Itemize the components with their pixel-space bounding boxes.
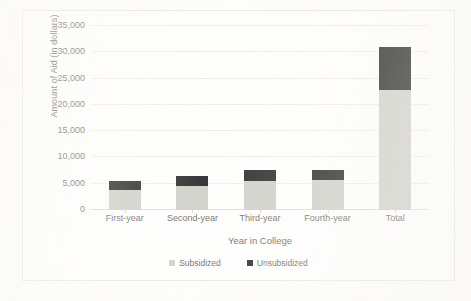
bar-segment-unsubsidized[interactable]: [176, 176, 208, 186]
bar-segment-subsidized[interactable]: [379, 90, 411, 210]
y-axis-tick-label: 15,000: [57, 125, 85, 135]
bar-group[interactable]: [176, 26, 208, 210]
legend-swatch-icon: [169, 260, 175, 266]
x-axis-tick-labels: First-yearSecond-yearThird-yearFourth-ye…: [91, 213, 429, 223]
y-axis-tick-label: 30,000: [57, 46, 85, 56]
y-axis-tick-label: 35,000: [57, 20, 85, 30]
bar-group[interactable]: [379, 26, 411, 210]
bar-series-container: [91, 26, 429, 210]
bar-segment-unsubsidized[interactable]: [379, 47, 411, 90]
bar-segment-subsidized[interactable]: [109, 190, 141, 210]
legend-item[interactable]: Unsubsidized: [247, 258, 308, 268]
legend-label: Unsubsidized: [257, 258, 308, 268]
x-axis-tick-label: Fourth-year: [297, 213, 359, 223]
bar-segment-unsubsidized[interactable]: [244, 170, 276, 181]
bar-segment-subsidized[interactable]: [244, 181, 276, 210]
chart-page: Amount of Aid (in dollars) 05,00010,0001…: [0, 0, 471, 301]
bar-segment-unsubsidized[interactable]: [109, 181, 141, 190]
bar-group[interactable]: [109, 26, 141, 210]
legend-swatch-icon: [247, 260, 253, 266]
legend-item[interactable]: Subsidized: [169, 258, 221, 268]
chart-frame: Amount of Aid (in dollars) 05,00010,0001…: [22, 10, 455, 281]
x-axis-tick-label: Third-year: [229, 213, 291, 223]
plot-area: 05,00010,00015,00020,00025,00030,00035,0…: [91, 26, 429, 210]
bar-group[interactable]: [244, 26, 276, 210]
y-axis-tick-label: 25,000: [57, 73, 85, 83]
x-axis-title: Year in College: [91, 235, 429, 246]
x-axis-tick-label: Total: [364, 213, 426, 223]
bar-segment-subsidized[interactable]: [312, 180, 344, 210]
x-axis-tick-label: First-year: [94, 213, 156, 223]
chart-legend: SubsidizedUnsubsidized: [23, 258, 454, 268]
bar-segment-unsubsidized[interactable]: [312, 170, 344, 179]
y-axis-tick-label: 0: [80, 204, 85, 214]
legend-label: Subsidized: [179, 258, 221, 268]
bar-segment-subsidized[interactable]: [176, 186, 208, 210]
y-axis-tick-label: 5,000: [62, 178, 85, 188]
y-axis-tick-label: 20,000: [57, 99, 85, 109]
y-axis-tick-label: 10,000: [57, 151, 85, 161]
x-axis-tick-label: Second-year: [161, 213, 223, 223]
bar-group[interactable]: [312, 26, 344, 210]
